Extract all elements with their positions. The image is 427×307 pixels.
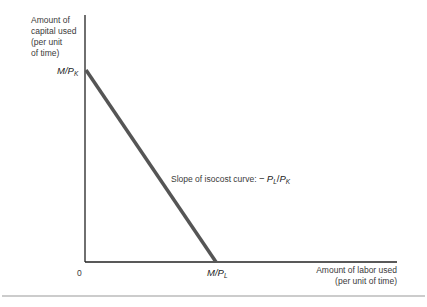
slope-annotation: Slope of isocost curve: − PL/PK	[171, 173, 290, 187]
isocost-line	[86, 70, 216, 262]
x-axis-label: Amount of labor used (per unit of time)	[316, 265, 397, 287]
x-intercept-label: M/PL	[207, 267, 228, 281]
origin-label: 0	[77, 268, 82, 279]
y-axis-label: Amount of capital used (per unit of time…	[31, 15, 76, 59]
y-intercept-label: M/PK	[57, 65, 78, 79]
